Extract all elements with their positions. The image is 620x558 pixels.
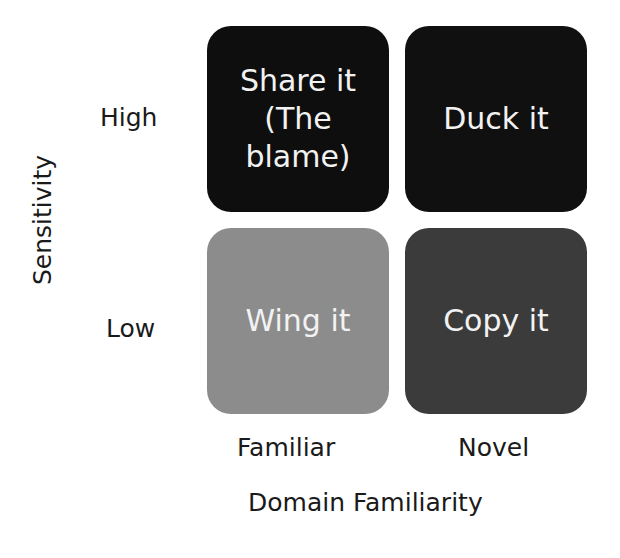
- row-label-high: High: [100, 103, 157, 132]
- column-label-familiar: Familiar: [237, 433, 335, 462]
- cell-label: Duck it: [443, 100, 549, 138]
- cell-low-familiar: Wing it: [207, 228, 389, 414]
- column-label-novel: Novel: [458, 433, 529, 462]
- cell-high-novel: Duck it: [405, 26, 587, 212]
- cell-high-familiar: Share it (The blame): [207, 26, 389, 212]
- x-axis-title: Domain Familiarity: [248, 488, 483, 517]
- cell-low-novel: Copy it: [405, 228, 587, 414]
- row-label-low: Low: [106, 314, 155, 343]
- y-axis-title: Sensitivity: [28, 155, 57, 285]
- cell-label: Wing it: [245, 302, 350, 340]
- cell-label: Share it (The blame): [240, 62, 356, 176]
- cell-label: Copy it: [443, 302, 549, 340]
